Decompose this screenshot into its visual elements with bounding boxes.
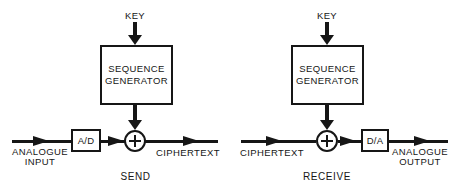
send-ciphertext-label: CIPHERTEXT	[153, 148, 223, 158]
receive-key-arrow-shaft	[325, 22, 329, 36]
send-key-arrow-down-icon	[128, 35, 142, 45]
send-caption: SEND	[105, 172, 166, 182]
receive-da-converter-box: D/A	[361, 129, 389, 152]
send-adder-plus-icon	[134, 135, 136, 147]
receive-key-label: KEY	[307, 11, 347, 21]
receive-adder-node	[316, 130, 338, 152]
receive-key-arrow-down-icon	[320, 35, 334, 45]
send-generator-label-line1: SEQUENCE	[108, 63, 165, 76]
receive-generator-output-arrow-down-icon	[320, 120, 334, 130]
send-output-line	[145, 140, 218, 143]
receive-generator-label-line1: SEQUENCE	[299, 63, 356, 76]
send-key-arrow-shaft	[133, 22, 137, 36]
send-input-right-arrow-icon	[33, 136, 49, 146]
receive-generator-output-arrow-shaft	[325, 105, 329, 121]
send-ad-converter-label: A/D	[78, 135, 94, 146]
send-generator-label-line2: GENERATOR	[105, 75, 168, 88]
stream-cipher-diagram: KEY SEQUENCE GENERATOR A/D ANALOGUE	[0, 0, 460, 192]
receive-da-converter-label: D/A	[367, 135, 383, 146]
send-sequence-generator-box: SEQUENCE GENERATOR	[100, 45, 173, 105]
send-converter-right-arrow-icon	[108, 136, 124, 146]
send-generator-output-arrow-down-icon	[128, 120, 142, 130]
receive-converter-right-arrow-icon	[340, 136, 356, 146]
send-generator-output-arrow-shaft	[133, 105, 137, 121]
receive-caption: RECEIVE	[296, 172, 358, 182]
receive-output-label-line2: OUTPUT	[387, 157, 453, 167]
send-input-label-line2: INPUT	[7, 157, 73, 167]
receive-ciphertext-label: CIPHERTEXT	[237, 148, 307, 158]
send-analogue-input-label: ANALOGUE INPUT	[7, 147, 73, 167]
receive-sequence-generator-box: SEQUENCE GENERATOR	[291, 45, 364, 105]
send-adder-node	[124, 130, 146, 152]
receive-output-right-arrow-icon	[414, 136, 430, 146]
receive-adder-plus-icon	[326, 135, 328, 147]
receive-analogue-output-label: ANALOGUE OUTPUT	[387, 147, 453, 167]
receive-generator-label-line2: GENERATOR	[296, 75, 359, 88]
send-ad-converter-box: A/D	[71, 129, 101, 152]
receive-input-right-arrow-icon	[266, 136, 282, 146]
send-key-label: KEY	[115, 11, 155, 21]
send-output-right-arrow-icon	[183, 136, 199, 146]
